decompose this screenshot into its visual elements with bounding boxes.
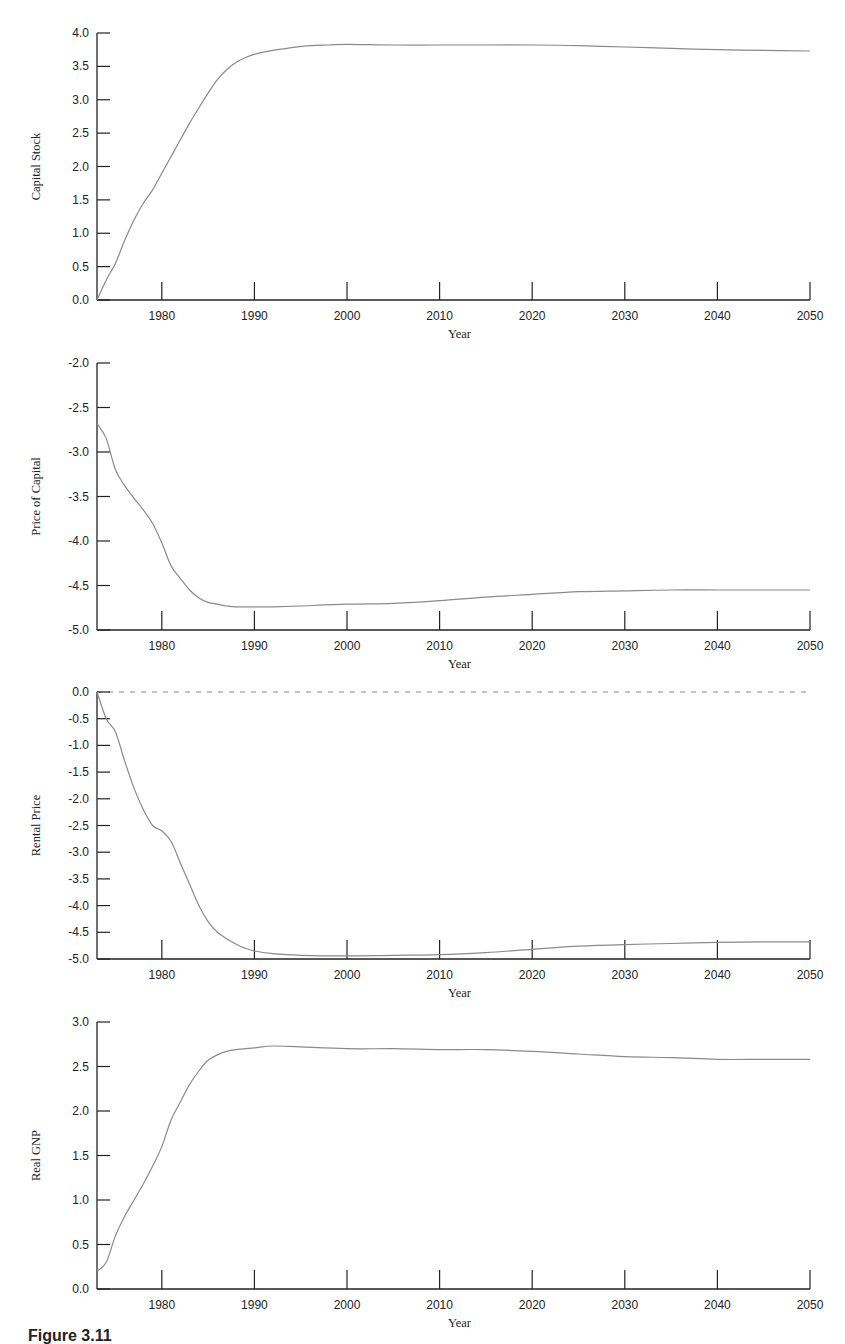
- x-tick-label: 2010: [426, 639, 453, 653]
- y-tick-label: -4.0: [68, 534, 89, 548]
- y-axis-title: Real GNP: [29, 1130, 43, 1181]
- y-tick-label: 0.0: [72, 293, 89, 307]
- x-tick-label: 1980: [148, 639, 175, 653]
- chart-panel-3: -5.0-4.5-4.0-3.5-3.0-2.5-2.0-1.5-1.0-0.5…: [29, 685, 824, 1000]
- y-tick-label: -4.5: [68, 925, 89, 939]
- x-tick-label: 2020: [519, 968, 546, 982]
- y-tick-label: -2.0: [68, 356, 89, 370]
- y-axis-title: Capital Stock: [29, 132, 43, 200]
- x-tick-label: 2030: [611, 1298, 638, 1312]
- x-tick-label: 2040: [704, 1298, 731, 1312]
- x-tick-label: 2050: [797, 639, 824, 653]
- figure-caption: Figure 3.11: [28, 1327, 112, 1344]
- x-tick-label: 2030: [611, 309, 638, 323]
- x-tick-label: 2000: [334, 968, 361, 982]
- y-tick-label: 1.5: [72, 1149, 89, 1163]
- x-tick-label: 2030: [611, 968, 638, 982]
- x-tick-label: 2040: [704, 639, 731, 653]
- y-tick-label: -3.5: [68, 490, 89, 504]
- chart-panel-4: 0.00.51.01.52.02.53.01980199020002010202…: [29, 1015, 824, 1330]
- x-tick-label: 2010: [426, 968, 453, 982]
- y-tick-label: -1.5: [68, 765, 89, 779]
- x-tick-label: 1990: [241, 968, 268, 982]
- y-tick-label: -5.0: [68, 623, 89, 637]
- x-tick-label: 2040: [704, 309, 731, 323]
- y-tick-label: -4.5: [68, 579, 89, 593]
- x-axis-title: Year: [448, 657, 472, 671]
- chart-panel-1: 0.00.51.01.52.02.53.03.54.01980199020002…: [29, 26, 824, 341]
- x-axis-title: Year: [448, 327, 472, 341]
- y-tick-label: 0.0: [72, 685, 89, 699]
- chart-panel-2: -5.0-4.5-4.0-3.5-3.0-2.5-2.0198019902000…: [29, 356, 824, 671]
- y-tick-label: -4.0: [68, 899, 89, 913]
- y-axis-title: Price of Capital: [29, 457, 43, 536]
- y-tick-label: 1.0: [72, 1193, 89, 1207]
- y-tick-label: -0.5: [68, 712, 89, 726]
- data-series-line: [97, 424, 810, 607]
- x-axis-title: Year: [448, 1316, 472, 1330]
- y-tick-label: 2.0: [72, 160, 89, 174]
- y-tick-label: 1.0: [72, 226, 89, 240]
- x-tick-label: 1980: [148, 1298, 175, 1312]
- y-tick-label: -3.0: [68, 845, 89, 859]
- x-tick-label: 1980: [148, 968, 175, 982]
- x-axis-title: Year: [448, 986, 472, 1000]
- data-series-line: [97, 1046, 810, 1271]
- y-tick-label: -3.0: [68, 445, 89, 459]
- x-tick-label: 2050: [797, 968, 824, 982]
- y-tick-label: -3.5: [68, 872, 89, 886]
- y-tick-label: 0.0: [72, 1282, 89, 1296]
- x-tick-label: 2020: [519, 1298, 546, 1312]
- x-tick-label: 2050: [797, 1298, 824, 1312]
- x-tick-label: 2020: [519, 309, 546, 323]
- x-tick-label: 2000: [334, 1298, 361, 1312]
- y-tick-label: 3.0: [72, 93, 89, 107]
- x-tick-label: 1990: [241, 639, 268, 653]
- y-tick-label: -2.0: [68, 792, 89, 806]
- x-tick-label: 2050: [797, 309, 824, 323]
- x-tick-label: 2030: [611, 639, 638, 653]
- figure: 0.00.51.01.52.02.53.03.54.01980199020002…: [0, 0, 845, 1344]
- x-tick-label: 2020: [519, 639, 546, 653]
- y-tick-label: 3.5: [72, 59, 89, 73]
- y-tick-label: -1.0: [68, 738, 89, 752]
- y-tick-label: 0.5: [72, 1238, 89, 1252]
- x-tick-label: 2010: [426, 1298, 453, 1312]
- y-tick-label: 2.5: [72, 1060, 89, 1074]
- y-tick-label: 2.5: [72, 126, 89, 140]
- y-tick-label: -2.5: [68, 819, 89, 833]
- y-tick-label: -5.0: [68, 952, 89, 966]
- x-tick-label: 2000: [334, 309, 361, 323]
- y-tick-label: -2.5: [68, 401, 89, 415]
- y-tick-label: 0.5: [72, 260, 89, 274]
- x-tick-label: 1990: [241, 1298, 268, 1312]
- data-series-line: [97, 692, 810, 956]
- y-tick-label: 2.0: [72, 1104, 89, 1118]
- x-tick-label: 2000: [334, 639, 361, 653]
- x-tick-label: 1980: [148, 309, 175, 323]
- x-tick-label: 1990: [241, 309, 268, 323]
- data-series-line: [97, 44, 810, 300]
- x-tick-label: 2040: [704, 968, 731, 982]
- y-tick-label: 3.0: [72, 1015, 89, 1029]
- y-tick-label: 1.5: [72, 193, 89, 207]
- y-tick-label: 4.0: [72, 26, 89, 40]
- y-axis-title: Rental Price: [29, 794, 43, 856]
- x-tick-label: 2010: [426, 309, 453, 323]
